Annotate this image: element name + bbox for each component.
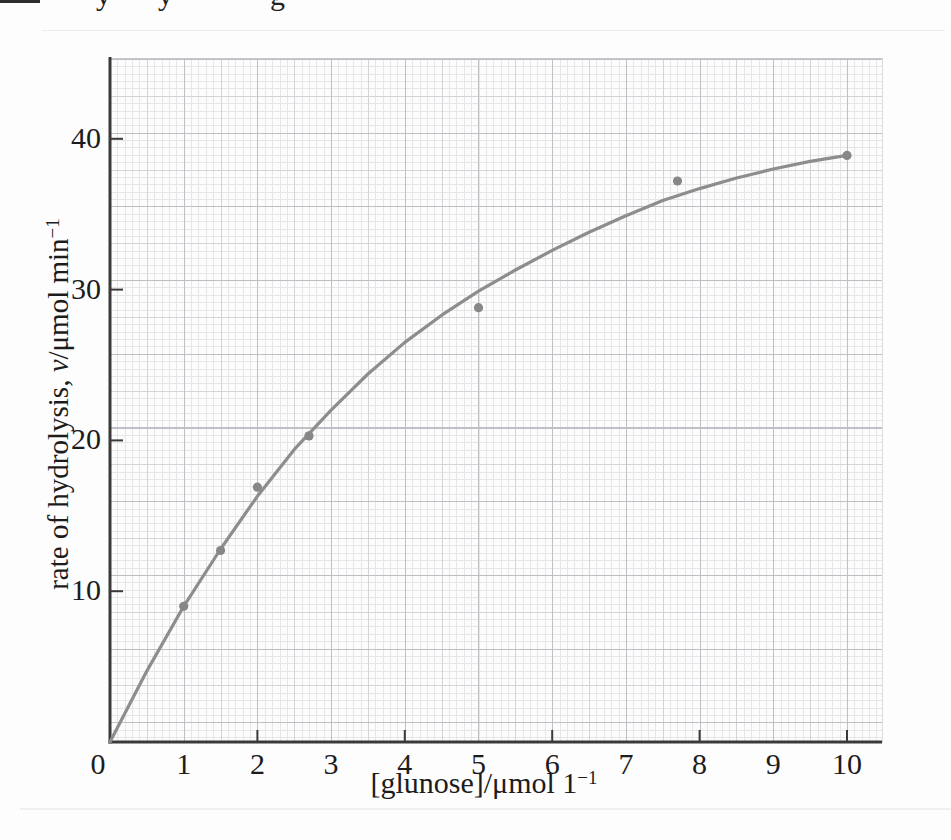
x-axis-exponent: −1 <box>577 767 597 788</box>
cropped-letter-descender: y <box>96 0 111 11</box>
y-axis-title: rate of hydrolysis, v/μmol min−1 <box>42 218 75 590</box>
x-tick-label: 9 <box>748 746 798 782</box>
scan-artifact-line-bottom <box>20 808 951 810</box>
y-tick-label: 40 <box>31 120 101 156</box>
x-axis-title: [glunose]/μmol 1−1 <box>370 766 597 800</box>
x-tick-label: 7 <box>601 746 651 782</box>
x-tick-label: 1 <box>159 746 209 782</box>
cropped-text-fragments: y y g <box>0 0 951 11</box>
cropped-letter-descender: g <box>270 0 285 11</box>
y-axis-exponent: −1 <box>42 218 63 238</box>
y-axis-variable: v <box>42 359 74 372</box>
plot-area <box>110 58 883 743</box>
page: y y g 10203040 012345678910 rate of hydr… <box>0 0 951 840</box>
x-tick-label: 0 <box>73 746 123 782</box>
scan-artifact-line-top <box>42 30 945 31</box>
x-tick-label: 2 <box>232 746 282 782</box>
x-tick-label: 3 <box>306 746 356 782</box>
cropped-text-dash <box>0 0 40 3</box>
cropped-letter-descender: y <box>158 0 173 11</box>
x-tick-label: 10 <box>822 746 872 782</box>
x-tick-label: 8 <box>675 746 725 782</box>
y-axis-units: /μmol min <box>42 238 74 359</box>
x-axis-title-text: [glunose]/μmol 1 <box>370 766 577 799</box>
y-axis-title-text: rate of hydrolysis, <box>42 372 74 589</box>
